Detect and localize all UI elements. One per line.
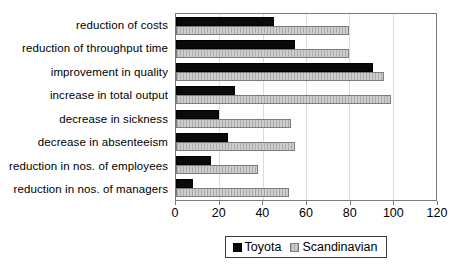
bar-group xyxy=(176,130,436,153)
bar-toyota xyxy=(176,63,373,72)
category-label: improvement in quality xyxy=(0,60,171,84)
legend-label: Toyota xyxy=(245,240,282,254)
tick-label-0: 0 xyxy=(172,206,179,220)
bar-scandinavian xyxy=(176,165,258,174)
category-label: reduction of costs xyxy=(0,13,171,37)
legend: ToyotaScandinavian xyxy=(175,236,437,258)
bar-group xyxy=(176,37,436,60)
clustered-bar-chart: reduction of costsreduction of throughpu… xyxy=(0,0,456,267)
tick-label-40: 40 xyxy=(255,206,269,220)
legend-item-toyota: Toyota xyxy=(233,240,282,254)
legend-label: Scandinavian xyxy=(302,240,377,254)
bar-scandinavian xyxy=(176,142,295,151)
tick-label-20: 20 xyxy=(212,206,226,220)
category-label: reduction of throughput time xyxy=(0,37,171,61)
tick-mark-20 xyxy=(219,201,220,205)
x-axis: 020406080100120 xyxy=(175,201,437,223)
category-label: decrease in absenteeism xyxy=(0,131,171,155)
bar-toyota xyxy=(176,110,219,119)
tick-mark-100 xyxy=(393,201,394,205)
bar-scandinavian xyxy=(176,26,349,35)
tick-label-120: 120 xyxy=(427,206,448,220)
legend-swatch-toyota xyxy=(233,243,242,252)
bar-group xyxy=(176,84,436,107)
bar-toyota xyxy=(176,86,235,95)
legend-box: ToyotaScandinavian xyxy=(225,236,388,258)
category-label: reduction in nos. of managers xyxy=(0,178,171,202)
bar-group xyxy=(176,154,436,177)
bar-toyota xyxy=(176,179,193,188)
bar-rows xyxy=(176,14,436,200)
tick-mark-60 xyxy=(306,201,307,205)
bar-group xyxy=(176,107,436,130)
legend-swatch-scandinavian xyxy=(290,243,299,252)
bar-group xyxy=(176,14,436,37)
bar-scandinavian xyxy=(176,72,384,81)
category-label: reduction in nos. of employees xyxy=(0,154,171,178)
tick-mark-120 xyxy=(437,201,438,205)
tick-mark-40 xyxy=(262,201,263,205)
plot-area xyxy=(175,13,437,201)
category-axis-labels: reduction of costsreduction of throughpu… xyxy=(0,13,171,201)
category-label: increase in total output xyxy=(0,84,171,108)
tick-label-80: 80 xyxy=(343,206,357,220)
category-label: decrease in sickness xyxy=(0,107,171,131)
bar-scandinavian xyxy=(176,49,349,58)
bar-scandinavian xyxy=(176,95,391,104)
tick-mark-80 xyxy=(350,201,351,205)
tick-label-100: 100 xyxy=(383,206,404,220)
bar-toyota xyxy=(176,156,211,165)
tick-mark-0 xyxy=(175,201,176,205)
bar-group xyxy=(176,177,436,200)
bar-toyota xyxy=(176,17,274,26)
bar-scandinavian xyxy=(176,188,289,197)
tick-label-60: 60 xyxy=(299,206,313,220)
bar-toyota xyxy=(176,133,228,142)
bar-toyota xyxy=(176,40,295,49)
bar-group xyxy=(176,61,436,84)
bar-scandinavian xyxy=(176,119,291,128)
legend-item-scandinavian: Scandinavian xyxy=(290,240,377,254)
